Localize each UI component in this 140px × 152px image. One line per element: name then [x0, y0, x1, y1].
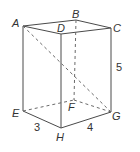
edge-eh	[23, 111, 61, 128]
edge-cd	[61, 28, 111, 34]
vertex-label-b: B	[72, 8, 79, 20]
prism-diagram: A B C D E F G H 3 4 5	[0, 0, 140, 152]
edge-da	[23, 26, 61, 34]
vertex-label-d: D	[57, 22, 65, 34]
dimension-label-cg: 5	[116, 61, 122, 73]
dimension-label-eh: 3	[34, 121, 40, 133]
vertex-label-c: C	[113, 22, 121, 34]
vertex-label-a: A	[11, 17, 19, 29]
dimension-label-hg: 4	[87, 121, 93, 133]
edge-hg	[61, 112, 111, 128]
hidden-edge-ef	[23, 100, 74, 111]
edge-ab	[23, 20, 76, 26]
vertex-label-e: E	[12, 107, 20, 119]
vertex-label-h: H	[56, 131, 64, 143]
diagonal-ag	[23, 26, 111, 112]
vertex-label-g: G	[112, 110, 121, 122]
vertex-label-f: F	[68, 101, 76, 113]
edge-bc	[76, 20, 111, 28]
